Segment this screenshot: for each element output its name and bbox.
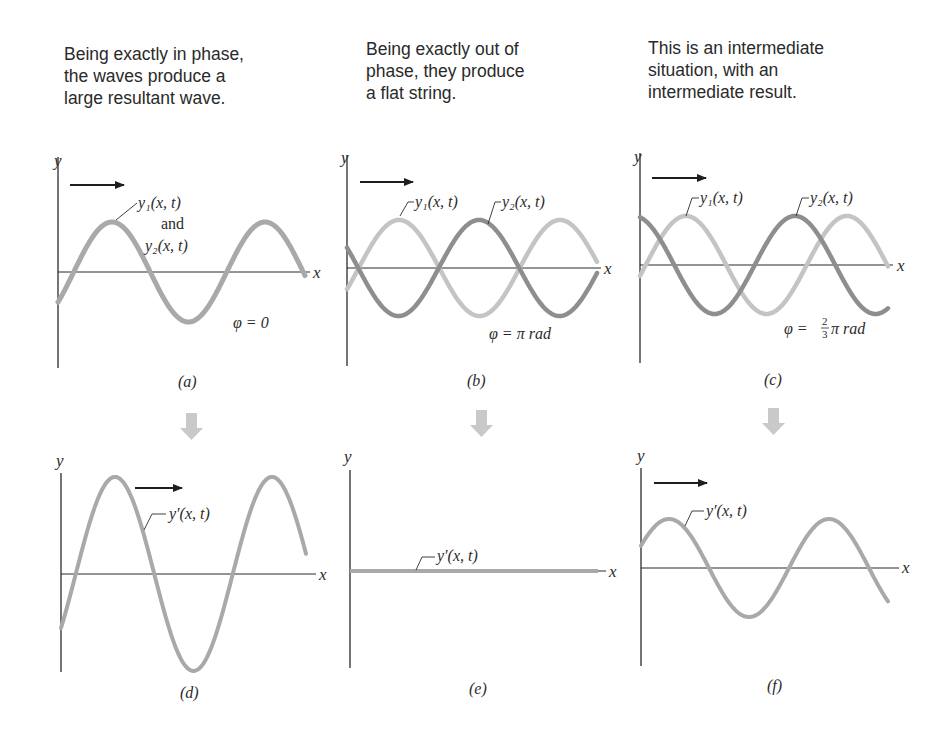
x-axis-label: x — [312, 263, 321, 282]
panel-label-b: (b) — [467, 372, 486, 390]
panel-label-e: (e) — [469, 680, 487, 698]
phase-label-prefix: φ = — [784, 320, 808, 338]
panel-a: y x y₁(x, t) and y₂(x, t) φ = 0 (a) — [52, 151, 321, 391]
panel-label-c: (c) — [764, 371, 782, 389]
phase-label: φ = 0 — [233, 314, 269, 332]
wave-label-resultant: y′(x, t) — [704, 502, 747, 520]
x-axis-label: x — [318, 565, 327, 584]
panel-f: y x y′(x, t) (f) — [635, 446, 910, 695]
label-leader — [685, 511, 704, 526]
wave-interference-figure: y x y₁(x, t) and y₂(x, t) φ = 0 (a) y x … — [0, 0, 949, 743]
label-leader — [116, 203, 137, 220]
panel-d: y x y′(x, t) (d) — [54, 451, 327, 702]
wave-label-and: and — [161, 215, 184, 232]
y-axis-label: y — [52, 151, 62, 170]
x-axis-label: x — [608, 562, 617, 581]
label-leader — [686, 198, 699, 216]
down-arrow-icon — [762, 408, 785, 435]
y-axis-label: y — [339, 148, 349, 167]
wave-label-y2: y₂(x, t) — [143, 237, 188, 255]
wave-label-resultant: y′(x, t) — [435, 547, 478, 565]
label-leader — [144, 514, 166, 530]
label-leader — [416, 557, 435, 570]
wave-label-y2: y₂(x, t) — [808, 189, 853, 207]
panel-label-a: (a) — [178, 373, 197, 391]
phase-label-suffix: π rad — [831, 320, 866, 337]
x-axis-label: x — [896, 256, 905, 275]
panel-c: y x y₁(x, t) y₂(x, t) φ = 2 3 π rad (c) — [632, 147, 905, 389]
phase-label: φ = π rad — [489, 325, 552, 343]
y-axis-label: y — [342, 447, 352, 466]
down-arrow-icon — [470, 410, 493, 437]
wave-label-y1: y₁(x, t) — [136, 194, 181, 212]
wave-label-resultant: y′(x, t) — [167, 505, 210, 523]
wave-label-y2: y₂(x, t) — [500, 193, 545, 211]
label-leader — [400, 202, 414, 216]
y-axis-label: y — [54, 451, 64, 470]
panel-label-d: (d) — [180, 684, 199, 702]
wave-label-y1: y₁(x, t) — [698, 189, 743, 207]
phase-fraction-numerator: 2 — [822, 315, 828, 327]
phase-fraction-denominator: 3 — [822, 328, 828, 340]
y-axis-label: y — [632, 147, 642, 166]
panel-e: y x y′(x, t) (e) — [342, 447, 617, 698]
down-arrow-icon — [180, 413, 203, 440]
x-axis-label: x — [603, 259, 612, 278]
label-leader — [796, 198, 809, 216]
label-leader — [488, 202, 501, 224]
panel-b: y x y₁(x, t) y₂(x, t) φ = π rad (b) — [339, 148, 612, 390]
x-axis-label: x — [901, 558, 910, 577]
panel-label-f: (f) — [767, 677, 782, 695]
wave-label-y1: y₁(x, t) — [413, 193, 458, 211]
y-axis-label: y — [635, 446, 645, 465]
